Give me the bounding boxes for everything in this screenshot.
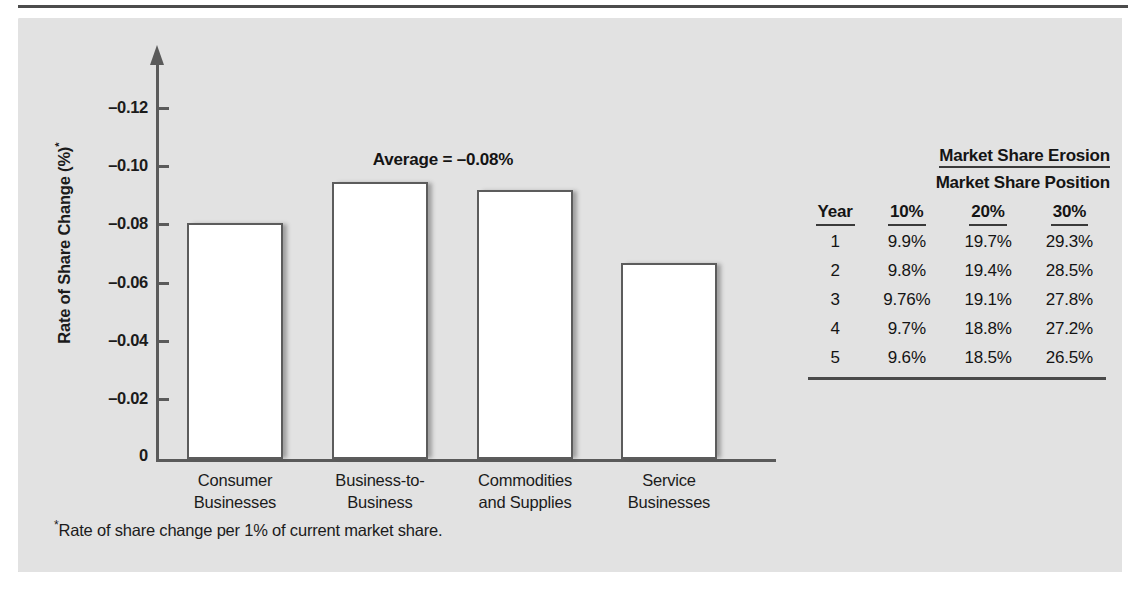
cell-10: 9.76% [866,285,947,314]
table-title: Market Share Erosion [708,146,1118,166]
erosion-table: Year 10% 20% 30% 1 9.9% 19.7% 29.3% 2 9.… [804,200,1110,372]
x-label-line-1: Commodities [450,470,600,492]
y-tick-mark-0 [159,107,169,110]
y-tick-label-6: 0 [68,446,148,465]
x-label-service-businesses: Service Businesses [594,470,744,514]
y-tick-mark-2 [159,223,169,226]
footnote-text: Rate of share change per 1% of current m… [58,521,442,539]
table-bottom-rule [808,377,1106,380]
table-header-30-text: 30% [1051,202,1088,226]
x-label-line-1: Business-to- [305,470,455,492]
top-divider-rule [18,5,1128,8]
x-label-line-1: Consumer [160,470,310,492]
y-tick-label-5: –0.02 [68,389,148,408]
y-tick-mark-1 [159,165,169,168]
cell-year: 3 [804,285,866,314]
table-title-text: Market Share Erosion [939,146,1110,168]
table-row: 5 9.6% 18.5% 26.5% [804,343,1110,372]
cell-10: 9.6% [866,343,947,372]
y-tick-mark-4 [159,340,169,343]
bar-service-businesses[interactable] [621,263,717,459]
x-label-line-2: Businesses [160,492,310,514]
cell-10: 9.7% [866,314,947,343]
cell-year: 2 [804,256,866,285]
y-axis-line [156,63,159,461]
cell-20: 19.4% [947,256,1028,285]
figure-panel: Rate of Share Change (%)* –0.12 –0.10 –0… [18,18,1122,572]
x-label-business-to-business: Business-to- Business [305,470,455,514]
table-row: 3 9.76% 19.1% 27.8% [804,285,1110,314]
y-tick-label-2: –0.08 [68,214,148,233]
y-axis-arrow-icon [150,45,164,65]
table-header-20: 20% [947,200,1028,227]
x-label-line-2: Business [305,492,455,514]
cell-year: 4 [804,314,866,343]
y-tick-mark-3 [159,282,169,285]
y-tick-label-1: –0.10 [68,156,148,175]
cell-20: 19.1% [947,285,1028,314]
table-row: 4 9.7% 18.8% 27.2% [804,314,1110,343]
average-annotation: Average = –0.08% [318,150,568,170]
bar-consumer-businesses[interactable] [187,223,283,459]
x-label-line-2: and Supplies [450,492,600,514]
bar-commodities-and-supplies[interactable] [477,190,573,459]
x-label-line-2: Businesses [594,492,744,514]
bar-business-to-business[interactable] [332,182,428,459]
x-label-consumer-businesses: Consumer Businesses [160,470,310,514]
table-header-20-text: 20% [969,202,1006,226]
table-header-row: Year 10% 20% 30% [804,200,1110,227]
x-label-commodities-and-supplies: Commodities and Supplies [450,470,600,514]
market-share-erosion-table-block: Market Share Erosion Market Share Positi… [708,146,1118,380]
x-axis-line [156,459,776,462]
cell-30: 27.8% [1029,285,1110,314]
table-row: 2 9.8% 19.4% 28.5% [804,256,1110,285]
table-header-10-text: 10% [888,202,925,226]
cell-10: 9.8% [866,256,947,285]
cell-30: 29.3% [1029,227,1110,256]
y-tick-label-3: –0.06 [68,273,148,292]
footnote: *Rate of share change per 1% of current … [54,518,442,540]
cell-20: 18.8% [947,314,1028,343]
table-header-year: Year [804,200,866,227]
table-subtitle: Market Share Position [708,173,1118,193]
y-axis-tick-labels: –0.12 –0.10 –0.08 –0.06 –0.04 –0.02 0 [63,18,148,572]
y-tick-label-4: –0.04 [68,331,148,350]
cell-year: 5 [804,343,866,372]
cell-30: 28.5% [1029,256,1110,285]
table-header-10: 10% [866,200,947,227]
y-tick-label-0: –0.12 [68,98,148,117]
table-row: 1 9.9% 19.7% 29.3% [804,227,1110,256]
cell-year: 1 [804,227,866,256]
cell-30: 27.2% [1029,314,1110,343]
cell-30: 26.5% [1029,343,1110,372]
cell-10: 9.9% [866,227,947,256]
cell-20: 19.7% [947,227,1028,256]
y-tick-mark-5 [159,398,169,401]
table-header-30: 30% [1029,200,1110,227]
cell-20: 18.5% [947,343,1028,372]
table-header-year-text: Year [816,202,855,226]
x-label-line-1: Service [594,470,744,492]
